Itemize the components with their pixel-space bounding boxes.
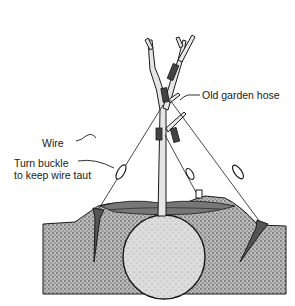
- label-turn-buckle: Turn buckle to keep wire taut: [14, 157, 91, 181]
- turnbuckle-icons: [114, 163, 246, 180]
- root-ball: [123, 215, 205, 299]
- tree-trunk: [145, 35, 195, 216]
- label-wire: Wire: [42, 137, 64, 149]
- label-old-garden-hose: Old garden hose: [202, 89, 280, 101]
- label-turn-buckle-line2: to keep wire taut: [14, 169, 91, 181]
- tree-staking-illustration: [0, 0, 295, 306]
- label-turn-buckle-line1: Turn buckle: [14, 157, 91, 169]
- leader-lines: [76, 95, 200, 168]
